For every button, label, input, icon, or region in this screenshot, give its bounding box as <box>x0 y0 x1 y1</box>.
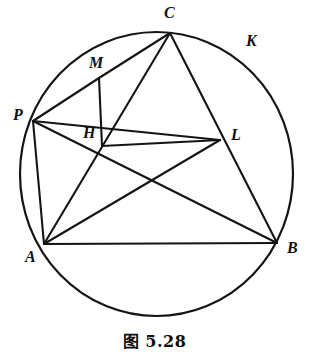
segment-AL <box>44 140 220 244</box>
vertex-label-B: B <box>287 240 298 256</box>
segment-PL <box>33 121 220 140</box>
vertex-label-M: M <box>89 55 103 71</box>
vertex-label-K: K <box>246 33 257 49</box>
segment-AP <box>33 121 44 244</box>
vertex-label-C: C <box>164 5 175 21</box>
geometry-figure: C K M P H L A B 图 5.28 <box>0 0 309 358</box>
vertex-label-L: L <box>231 127 241 143</box>
segment-AC <box>44 33 170 244</box>
segment-CB <box>170 33 277 243</box>
geometry-canvas <box>0 0 309 358</box>
segment-MH <box>99 78 102 146</box>
segment-PM <box>33 78 99 121</box>
figure-caption: 图 5.28 <box>0 328 309 352</box>
segment-AB <box>44 243 277 244</box>
segment-HL <box>102 140 220 146</box>
vertex-label-P: P <box>13 107 23 123</box>
vertex-label-H: H <box>83 125 95 141</box>
vertex-label-A: A <box>25 249 36 265</box>
circumcircle <box>20 32 293 316</box>
